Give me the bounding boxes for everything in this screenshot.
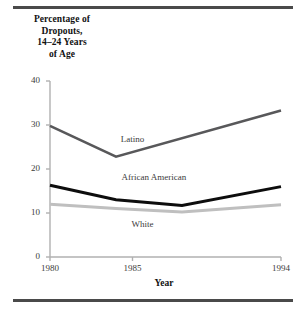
series-label-white: White — [131, 219, 153, 229]
y-tick-label-20: 20 — [18, 163, 40, 173]
y-tick-label-0: 0 — [18, 251, 40, 261]
y-tick-label-30: 30 — [18, 119, 40, 129]
x-axis-title: Year — [134, 278, 194, 288]
series-line-african-american — [50, 185, 281, 205]
figure-chart-dropouts: Percentage of Dropouts, 14–24 Years of A… — [0, 0, 308, 312]
y-tick-label-40: 40 — [18, 75, 40, 85]
x-tick-label-1985: 1985 — [113, 263, 153, 273]
series-line-latino — [50, 110, 281, 156]
series-group — [50, 110, 281, 212]
series-label-african-american: African American — [122, 172, 187, 182]
y-tick-label-10: 10 — [18, 207, 40, 217]
x-tick-label-1994: 1994 — [261, 263, 301, 273]
series-label-latino: Latino — [121, 134, 145, 144]
x-tick-label-1980: 1980 — [30, 263, 70, 273]
